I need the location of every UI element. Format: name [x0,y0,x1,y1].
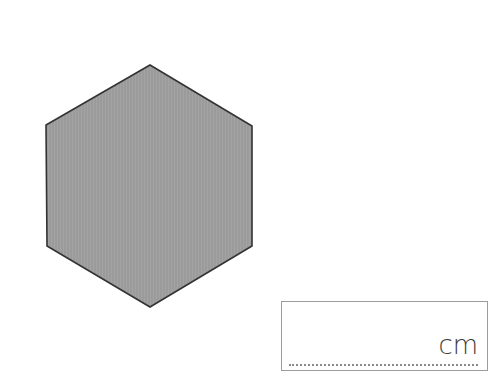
unit-label: cm [438,330,478,360]
answer-dotted-line [289,364,478,366]
hexagon-shape [46,65,252,307]
answer-box[interactable]: cm [281,301,488,371]
